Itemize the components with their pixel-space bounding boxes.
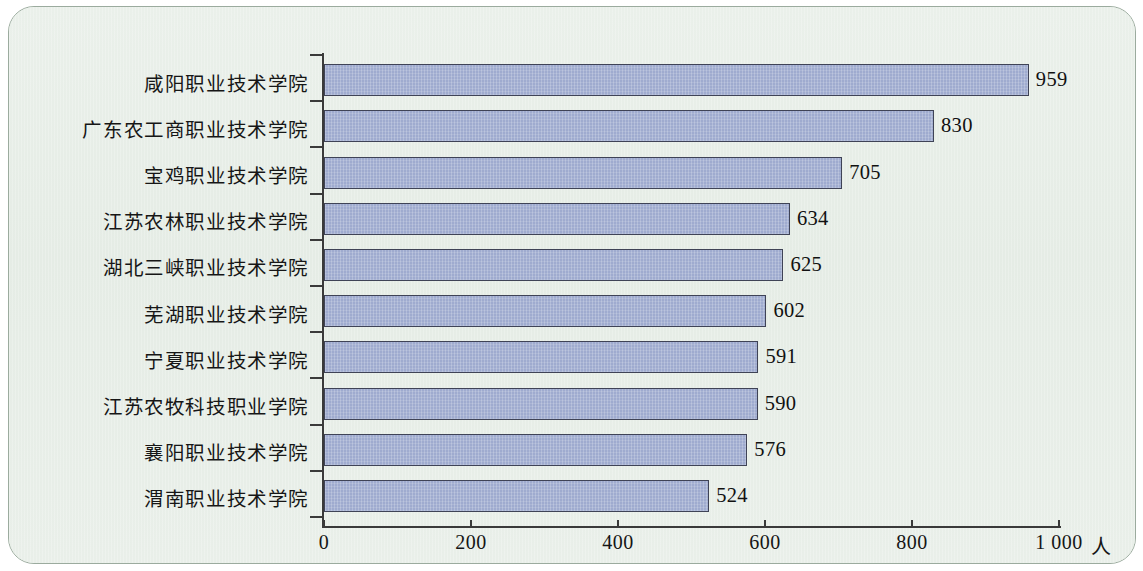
category-label: 江苏农牧科技职业学院 <box>103 391 309 420</box>
y-axis-tick <box>310 54 322 56</box>
y-axis-tick <box>310 331 322 333</box>
bar-value-label: 602 <box>773 299 805 322</box>
category-label-row: 渭南职业技术学院 <box>39 475 309 521</box>
bar-value-label: 576 <box>754 438 786 461</box>
category-label-row: 广东农工商职业技术学院 <box>39 105 309 151</box>
category-label-row: 芜湖职业技术学院 <box>39 290 309 336</box>
category-axis-labels: 咸阳职业技术学院 广东农工商职业技术学院 宝鸡职业技术学院 江苏农林职业技术学院… <box>39 59 309 521</box>
bar <box>324 157 842 189</box>
x-axis-tick <box>470 520 472 527</box>
y-axis-tick <box>310 100 322 102</box>
bar-value-label: 590 <box>765 392 797 415</box>
bar-chart-plot-area: 咸阳职业技术学院 广东农工商职业技术学院 宝鸡职业技术学院 江苏农林职业技术学院… <box>9 7 1135 563</box>
bar <box>324 249 783 281</box>
category-label-row: 宝鸡职业技术学院 <box>39 151 309 197</box>
x-axis-unit-label: 人 <box>1091 531 1111 560</box>
bar-value-label: 959 <box>1036 68 1068 91</box>
bar-value-label: 625 <box>790 253 822 276</box>
y-axis-tick <box>310 516 322 518</box>
x-axis-tick <box>617 520 619 527</box>
x-axis-tick <box>911 520 913 527</box>
category-label: 广东农工商职业技术学院 <box>82 114 309 143</box>
category-label: 芜湖职业技术学院 <box>144 299 309 328</box>
y-axis-tick <box>310 424 322 426</box>
category-label: 湖北三峡职业技术学院 <box>103 252 309 281</box>
bar <box>324 434 747 466</box>
category-label-row: 襄阳职业技术学院 <box>39 429 309 475</box>
bar-value-label: 591 <box>765 345 797 368</box>
category-label-row: 宁夏职业技术学院 <box>39 336 309 382</box>
y-axis-tick <box>310 377 322 379</box>
category-label: 渭南职业技术学院 <box>144 483 309 512</box>
bar-value-label: 634 <box>797 207 829 230</box>
bar <box>324 110 934 142</box>
bar-value-label: 705 <box>849 161 881 184</box>
y-axis-tick <box>310 285 322 287</box>
bar <box>324 388 758 420</box>
category-label: 襄阳职业技术学院 <box>144 437 309 466</box>
chart-panel: 咸阳职业技术学院 广东农工商职业技术学院 宝鸡职业技术学院 江苏农林职业技术学院… <box>8 6 1136 564</box>
x-axis-tick <box>323 520 325 527</box>
bar-value-label: 524 <box>716 484 748 507</box>
y-axis-tick <box>310 146 322 148</box>
category-label-row: 江苏农林职业技术学院 <box>39 198 309 244</box>
x-axis-tick <box>764 520 766 527</box>
category-label-row: 咸阳职业技术学院 <box>39 59 309 105</box>
y-axis-tick <box>310 193 322 195</box>
x-axis-tick-label: 200 <box>455 531 487 554</box>
bar-value-label: 830 <box>941 114 973 137</box>
category-label: 宝鸡职业技术学院 <box>144 160 309 189</box>
category-label-row: 江苏农牧科技职业学院 <box>39 382 309 428</box>
y-axis-tick <box>310 239 322 241</box>
y-axis-tick <box>310 470 322 472</box>
category-label: 江苏农林职业技术学院 <box>103 206 309 235</box>
x-axis-tick-label: 600 <box>749 531 781 554</box>
category-label: 宁夏职业技术学院 <box>144 345 309 374</box>
x-axis-line <box>322 526 1061 528</box>
bar <box>324 295 766 327</box>
category-label: 咸阳职业技术学院 <box>144 68 309 97</box>
bar <box>324 341 758 373</box>
bar <box>324 64 1029 96</box>
x-axis-tick-label: 400 <box>602 531 634 554</box>
bar <box>324 480 709 512</box>
x-axis-tick-label: 1 000 <box>1035 531 1083 554</box>
category-label-row: 湖北三峡职业技术学院 <box>39 244 309 290</box>
x-axis-tick-label: 0 <box>319 531 330 554</box>
bar <box>324 203 790 235</box>
x-axis-tick-label: 800 <box>896 531 928 554</box>
x-axis-tick <box>1058 520 1060 527</box>
